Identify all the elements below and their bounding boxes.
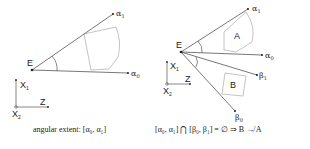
- axis-z-label: Z: [40, 97, 46, 107]
- alpha0-label: α0: [131, 69, 140, 79]
- beta0-label: β0: [235, 113, 243, 123]
- alpha1-label: α1: [116, 9, 125, 19]
- axis-x1-label: X1: [20, 80, 29, 91]
- left-object-outline: [84, 27, 120, 70]
- angle-arc: [52, 56, 57, 71]
- right-panel: E A B α1 α0 β1 β0 X1 Z X2 [α₀, α₁] ⋂ [β₀…: [155, 4, 274, 134]
- ray-alpha0: [32, 70, 128, 73]
- eye-label: E: [176, 40, 182, 50]
- object-a-label: A: [234, 31, 240, 41]
- object-b-label: B: [230, 80, 236, 90]
- ray-beta1: [181, 52, 257, 75]
- axis-x2-label: X2: [12, 109, 21, 120]
- left-caption: angular extent: [α₀, α₁]: [33, 125, 106, 134]
- angular-extent-diagram: E α1 α0 X1 Z X2 angular extent: [α₀, α₁]…: [0, 0, 310, 149]
- eye-point: [31, 69, 34, 72]
- axis-z-label: Z: [185, 74, 191, 84]
- angle-arc-alpha: [198, 41, 202, 53]
- beta1-label: β1: [259, 71, 267, 81]
- angle-arc-beta: [196, 57, 198, 67]
- alpha1-label: α1: [252, 4, 261, 14]
- eye-label: E: [27, 58, 33, 68]
- axis-x1-label: X1: [170, 61, 179, 72]
- alpha0-label: α0: [265, 51, 274, 61]
- axis-x2-label: X2: [163, 86, 172, 97]
- ray-alpha0: [181, 52, 262, 55]
- eye-point: [180, 51, 183, 54]
- right-caption: [α₀, α₁] ⋂ [β₀, β₁] = ∅ ⇒ B ↛ A: [155, 125, 262, 134]
- left-panel: E α1 α0 X1 Z X2 angular extent: [α₀, α₁]: [12, 9, 140, 134]
- ray-alpha1: [32, 14, 113, 70]
